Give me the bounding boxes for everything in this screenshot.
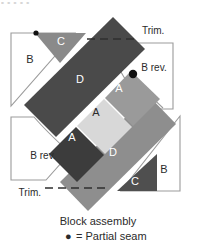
- partial-seam-dot-secondary: [33, 30, 38, 35]
- block-assembly-diagram: = = = = = B: [0, 0, 197, 248]
- label-trim-bottom: Trim.: [19, 187, 41, 198]
- diagram-canvas: B B rev. B rev. B C C D D A A A Trim. Tr…: [0, 0, 197, 248]
- label-d-top: D: [76, 73, 84, 85]
- top-fragment-text: = = = = =: [1, 0, 61, 6]
- label-c-bottom: C: [131, 175, 139, 187]
- caption-title: Block assembly: [60, 215, 137, 227]
- label-b-left: B: [26, 53, 33, 65]
- label-d-bottom: D: [109, 146, 117, 158]
- legend-dot-glyph: ●: [65, 230, 72, 242]
- label-trim-top: Trim.: [142, 25, 164, 36]
- label-b-rev-left: B rev.: [30, 150, 55, 161]
- label-a-bottom-left: A: [68, 131, 76, 143]
- label-b-right: B: [160, 163, 167, 175]
- label-b-rev-right: B rev.: [141, 62, 166, 73]
- caption-legend: = Partial seam: [76, 230, 147, 242]
- label-c-top: C: [57, 35, 65, 47]
- label-a-top-right: A: [115, 82, 123, 94]
- label-a-center: A: [92, 106, 100, 118]
- partial-seam-dot: [129, 70, 137, 78]
